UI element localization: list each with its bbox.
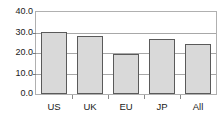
bar-uk xyxy=(77,36,103,94)
bar-us xyxy=(41,32,67,94)
x-axis-tick-mark xyxy=(108,95,109,99)
x-axis-tick-mark xyxy=(180,95,181,99)
bars-layer xyxy=(36,12,216,94)
x-axis-tick-label-eu: EU xyxy=(108,101,144,112)
x-axis-tick-label-jp: JP xyxy=(144,101,180,112)
x-axis-tick-label-us: US xyxy=(36,101,72,112)
bar-eu xyxy=(113,54,139,94)
y-axis-tick-label: 20.0 xyxy=(1,48,33,57)
plot-area xyxy=(35,11,217,95)
bar-jp xyxy=(149,39,175,94)
x-axis-tick-label-all: All xyxy=(180,101,216,112)
x-axis-tick-mark xyxy=(72,95,73,99)
x-axis-tick-label-uk: UK xyxy=(72,101,108,112)
y-axis-tick-labels: 0.010.020.030.040.0 xyxy=(0,0,33,125)
bar-all xyxy=(185,44,211,94)
y-axis-tick-label: 10.0 xyxy=(1,69,33,78)
bar-chart: 0.010.020.030.040.0 USUKEUJPAll xyxy=(0,0,224,125)
y-axis-tick-label: 0.0 xyxy=(1,89,33,98)
x-axis-tick-mark xyxy=(144,95,145,99)
y-axis-tick-label: 40.0 xyxy=(1,7,33,16)
y-axis-tick-label: 30.0 xyxy=(1,28,33,37)
